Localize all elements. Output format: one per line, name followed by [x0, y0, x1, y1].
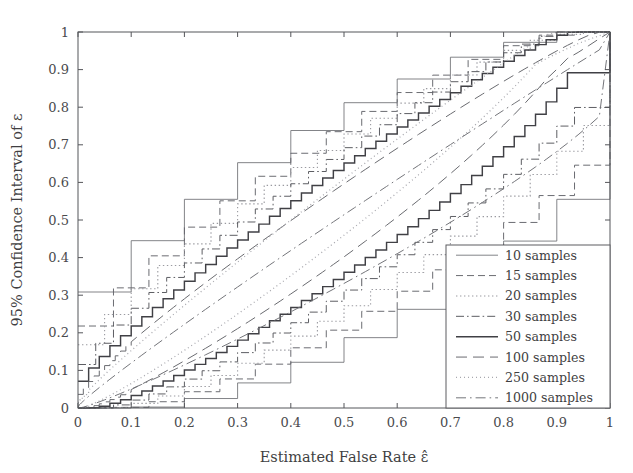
confidence-interval-chart: 00.10.20.30.40.50.60.70.80.91 00.10.20.3…	[0, 0, 633, 473]
y-tick-label-1: 0.1	[48, 363, 69, 378]
figure-container: 00.10.20.30.40.50.60.70.80.91 00.10.20.3…	[0, 0, 633, 473]
x-tick-label-10: 1	[606, 415, 614, 430]
x-tick-label-6: 0.6	[387, 415, 408, 430]
legend-label-50: 50 samples	[505, 329, 577, 344]
y-tick-label-3: 0.3	[48, 288, 69, 303]
y-tick-label-0: 0	[61, 401, 69, 416]
y-tick-label-10: 1	[61, 25, 69, 40]
x-tick-label-2: 0.2	[174, 415, 195, 430]
legend-label-100: 100 samples	[505, 350, 585, 365]
legend-label-1000: 1000 samples	[505, 390, 593, 405]
y-tick-label-5: 0.5	[48, 213, 69, 228]
x-axis-title: Estimated False Rate ε̂	[260, 449, 429, 465]
legend-label-250: 250 samples	[505, 370, 585, 385]
legend-label-30: 30 samples	[505, 309, 577, 324]
x-tick-label-4: 0.4	[280, 415, 301, 430]
y-tick-label-8: 0.8	[48, 100, 69, 115]
x-tick-label-8: 0.8	[493, 415, 514, 430]
y-tick-label-4: 0.4	[48, 250, 69, 265]
y-axis-title: 95% Confidence Interval of ε	[9, 114, 25, 327]
legend-label-20: 20 samples	[505, 288, 577, 303]
y-tick-label-7: 0.7	[48, 137, 69, 152]
x-tick-label-9: 0.9	[546, 415, 567, 430]
x-tick-label-3: 0.3	[227, 415, 248, 430]
legend-label-10: 10 samples	[505, 248, 577, 263]
y-tick-label-6: 0.6	[48, 175, 69, 190]
y-tick-label-2: 0.2	[48, 325, 69, 340]
legend-label-15: 15 samples	[505, 268, 577, 283]
x-tick-label-1: 0.1	[121, 415, 142, 430]
x-tick-label-7: 0.7	[440, 415, 461, 430]
y-tick-label-9: 0.9	[48, 62, 69, 77]
x-tick-label-5: 0.5	[334, 415, 355, 430]
x-tick-label-0: 0	[74, 415, 82, 430]
chart-legend: 10 samples15 samples20 samples30 samples…	[446, 245, 610, 408]
